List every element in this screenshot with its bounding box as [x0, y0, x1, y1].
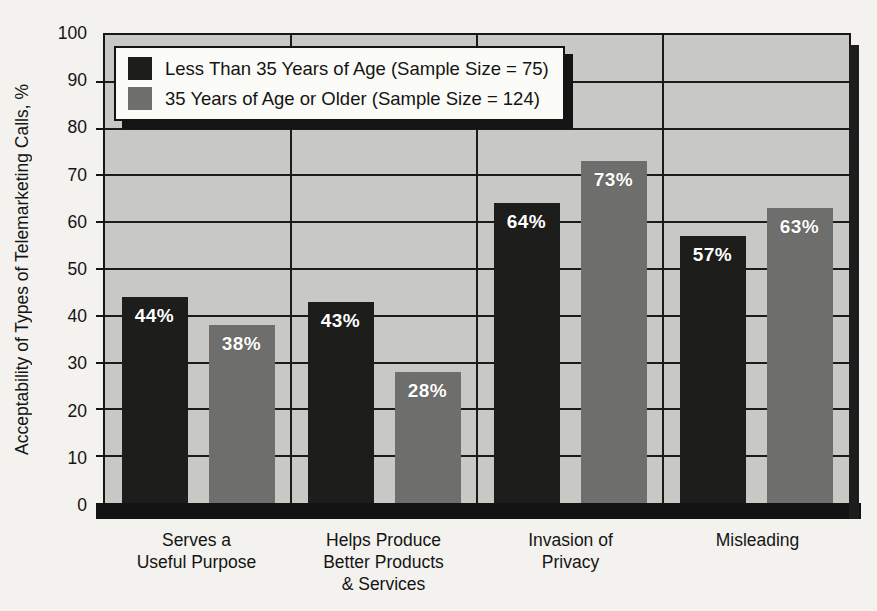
y-tick-label-90: 90 [68, 70, 87, 91]
bar-value-label: 63% [767, 216, 833, 238]
x-category-label-line: Useful Purpose [103, 551, 290, 573]
x-axis-category-labels: Serves aUseful PurposeHelps ProduceBette… [103, 529, 851, 595]
legend: Less Than 35 Years of Age (Sample Size =… [114, 46, 565, 121]
x-category-label-1: Serves aUseful Purpose [103, 529, 290, 595]
legend-item-under-35: Less Than 35 Years of Age (Sample Size =… [128, 57, 549, 80]
bar-group-4: 57%63% [663, 35, 849, 503]
bar-value-label: 28% [395, 380, 461, 402]
legend-swatch-under-35 [128, 57, 152, 80]
y-tick-label-40: 40 [68, 306, 87, 327]
x-category-label-3: Invasion ofPrivacy [477, 529, 664, 595]
y-tick-mark-70 [96, 174, 103, 176]
y-tick-label-50: 50 [68, 259, 87, 280]
y-tick-label-70: 70 [68, 164, 87, 185]
bar-series2-cat3: 73% [581, 161, 647, 503]
bar-value-label: 73% [581, 169, 647, 191]
y-tick-mark-60 [96, 221, 103, 223]
y-tick-mark-90 [96, 81, 103, 83]
bar-series1-cat2: 43% [308, 302, 374, 503]
bar-series2-cat1: 38% [209, 325, 275, 503]
bar-series2-cat4: 63% [767, 208, 833, 503]
y-tick-label-100: 100 [58, 23, 87, 44]
y-tick-label-10: 10 [68, 447, 87, 468]
x-category-label-line: Serves a [103, 529, 290, 551]
bar-series2-cat2: 28% [395, 372, 461, 503]
bar-value-label: 64% [494, 211, 560, 233]
y-tick-label-60: 60 [68, 211, 87, 232]
x-category-label-line: & Services [290, 573, 477, 595]
y-tick-mark-20 [96, 408, 103, 410]
x-category-label-line: Privacy [477, 551, 664, 573]
legend-item-35-or-older: 35 Years of Age or Older (Sample Size = … [128, 87, 549, 110]
bar-series1-cat4: 57% [680, 236, 746, 503]
bar-value-label: 38% [209, 333, 275, 355]
bar-value-label: 44% [122, 305, 188, 327]
legend-label-35-or-older: 35 Years of Age or Older (Sample Size = … [165, 88, 540, 110]
bar-series1-cat3: 64% [494, 203, 560, 503]
y-tick-mark-50 [96, 268, 103, 270]
y-tick-label-20: 20 [68, 400, 87, 421]
y-tick-mark-80 [96, 128, 103, 130]
y-tick-mark-40 [96, 315, 103, 317]
telemarketing-acceptability-chart: Acceptability of Types of Telemarketing … [0, 0, 877, 611]
legend-swatch-35-or-older [128, 87, 152, 110]
x-category-label-2: Helps ProduceBetter Products& Services [290, 529, 477, 595]
y-tick-label-80: 80 [68, 117, 87, 138]
bar-value-label: 43% [308, 310, 374, 332]
y-tick-mark-10 [96, 455, 103, 457]
x-category-label-line: Misleading [664, 529, 851, 551]
y-tick-mark-30 [96, 362, 103, 364]
bar-series1-cat1: 44% [122, 297, 188, 503]
legend-label-under-35: Less Than 35 Years of Age (Sample Size =… [165, 58, 549, 80]
plot-drop-shadow [849, 45, 859, 519]
y-tick-label-0: 0 [77, 495, 87, 516]
y-axis: 0102030405060708090100 [0, 33, 95, 505]
x-category-label-line: Better Products [290, 551, 477, 573]
axis-base-pedestal [96, 503, 861, 519]
x-category-label-line: Helps Produce [290, 529, 477, 551]
y-tick-label-30: 30 [68, 353, 87, 374]
x-category-label-4: Misleading [664, 529, 851, 595]
x-category-label-line: Invasion of [477, 529, 664, 551]
bar-value-label: 57% [680, 244, 746, 266]
plot-area: Less Than 35 Years of Age (Sample Size =… [103, 33, 851, 505]
